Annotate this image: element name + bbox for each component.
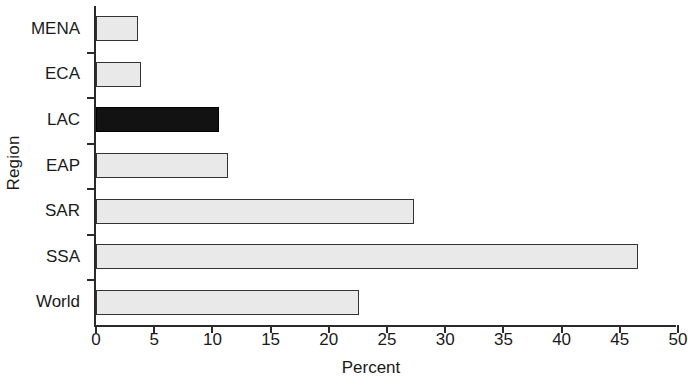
y-tick-label-lac: LAC [47, 110, 80, 130]
x-axis-title: Percent [0, 358, 688, 378]
bar-eca [96, 52, 141, 97]
bar-mena [96, 6, 138, 51]
y-axis-tick [87, 279, 96, 281]
y-axis-tick [87, 97, 96, 99]
bar-rect-sar [96, 199, 414, 224]
x-axis-line [94, 325, 676, 327]
bar-ssa [96, 234, 638, 279]
y-tick-label-sar: SAR [45, 201, 80, 221]
y-axis-tick [87, 188, 96, 190]
bar-eap [96, 143, 228, 188]
y-axis-tick-labels: MENAECALACEAPSARSSAWorld [0, 6, 88, 325]
x-tick-label-30: 30 [436, 330, 455, 350]
x-tick-label-10: 10 [203, 330, 222, 350]
bar-rect-ssa [96, 244, 638, 269]
y-axis-tick [87, 234, 96, 236]
x-tick-label-5: 5 [149, 330, 158, 350]
bar-sar [96, 189, 414, 234]
x-tick-label-50: 50 [669, 330, 688, 350]
y-axis-tick [87, 52, 96, 54]
bar-rect-eap [96, 153, 228, 178]
x-tick-label-35: 35 [494, 330, 513, 350]
bar-lac [96, 97, 219, 142]
x-tick-label-40: 40 [552, 330, 571, 350]
bar-rect-mena [96, 16, 138, 41]
x-tick-label-45: 45 [610, 330, 629, 350]
x-axis-title-label: Percent [342, 358, 401, 378]
x-tick-label-0: 0 [91, 330, 100, 350]
plot-area [96, 6, 678, 325]
bar-rect-eca [96, 62, 141, 87]
bar-world [96, 280, 359, 325]
y-tick-label-world: World [36, 292, 80, 312]
y-tick-label-mena: MENA [31, 19, 80, 39]
bar-rect-world [96, 290, 359, 315]
x-tick-label-20: 20 [319, 330, 338, 350]
x-tick-label-15: 15 [261, 330, 280, 350]
y-tick-label-eca: ECA [45, 64, 80, 84]
y-axis-tick [87, 143, 96, 145]
y-tick-label-ssa: SSA [46, 247, 80, 267]
y-tick-label-eap: EAP [46, 156, 80, 176]
x-tick-label-25: 25 [378, 330, 397, 350]
bar-rect-lac [96, 107, 219, 132]
bar-chart: Region MENAECALACEAPSARSSAWorld 05101520… [0, 0, 688, 387]
